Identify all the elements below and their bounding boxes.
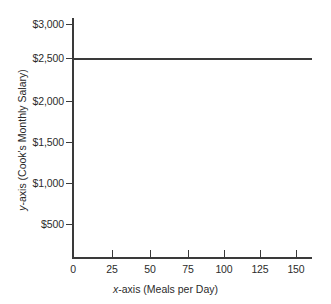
x-axis-tick-label-100: 100: [215, 264, 232, 275]
x-axis-tick-50: [150, 250, 151, 257]
y-axis-tick-label-2500: $2,500: [32, 53, 64, 64]
x-axis-tick-label-0: 0: [70, 264, 76, 275]
x-axis-tick-label-150: 150: [287, 264, 304, 275]
x-axis-tick-100: [224, 250, 225, 257]
series-line-cooks-monthly-salary: [72, 58, 312, 60]
y-axis-title-rest: -axis (Cook's Monthly Salary): [16, 69, 28, 205]
y-axis-line: [72, 18, 74, 259]
x-axis-tick-label-125: 125: [251, 264, 268, 275]
y-axis-tick-1500: [66, 142, 73, 143]
chart-figure: $3,000 $2,500 $2,000 $1,500 $1,000 $500 …: [0, 0, 331, 304]
y-axis-tick-3000: [66, 24, 73, 25]
x-axis-line: [72, 257, 312, 259]
y-axis-tick-label-3000: $3,000: [32, 19, 64, 30]
y-axis-tick-label-2000: $2,000: [32, 96, 64, 107]
y-axis-tick-2000: [66, 101, 73, 102]
x-axis-tick-75: [188, 250, 189, 257]
x-axis-tick-125: [260, 250, 261, 257]
y-axis-tick-label-1000: $1,000: [32, 178, 64, 189]
y-axis-title: y-axis (Cook's Monthly Salary): [16, 40, 28, 240]
y-axis-tick-label-1500: $1,500: [32, 137, 64, 148]
y-axis-tick-label-500: $500: [41, 219, 64, 230]
y-axis-title-italic: y: [16, 205, 28, 210]
x-axis-title-rest: -axis (Meals per Day): [118, 283, 218, 295]
x-axis-tick-150: [296, 250, 297, 257]
y-axis-tick-500: [66, 224, 73, 225]
x-axis-tick-label-25: 25: [106, 264, 117, 275]
y-axis-tick-1000: [66, 183, 73, 184]
x-axis-tick-label-75: 75: [182, 264, 193, 275]
x-axis-title: x-axis (Meals per Day): [0, 283, 331, 295]
x-axis-tick-label-50: 50: [144, 264, 155, 275]
plot-area: $3,000 $2,500 $2,000 $1,500 $1,000 $500 …: [0, 0, 331, 304]
x-axis-tick-25: [112, 250, 113, 257]
